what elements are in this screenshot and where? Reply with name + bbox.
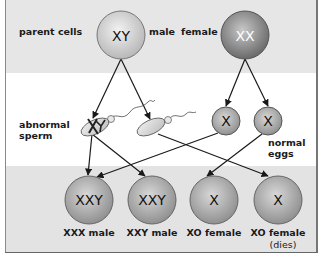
sperm-o-midpiece (165, 117, 172, 124)
offspring-1-label: XXX male (63, 227, 114, 238)
parent-cells-label: parent cells (19, 26, 83, 37)
normal-eggs-label-line2: eggs (268, 148, 294, 159)
offspring-4-label: XO female (251, 227, 306, 238)
parent-female-label: female (181, 26, 218, 37)
parent-female-genotype: XX (235, 28, 255, 44)
offspring-4-genotype: X (273, 192, 283, 208)
parent-male-genotype: XY (112, 28, 131, 44)
offspring-3-genotype: X (209, 192, 219, 208)
abnormal-sperm-label-line2: sperm (19, 130, 53, 141)
offspring-2-genotype: XXY (138, 192, 166, 208)
offspring-2: XXY XXY male (127, 176, 178, 238)
normal-eggs-label: normal (268, 137, 306, 148)
offspring-3-label: XO female (187, 227, 242, 238)
offspring-2-label: XXY male (127, 227, 178, 238)
parent-male-label: male (149, 26, 175, 37)
offspring-1-genotype: XXY (75, 192, 103, 208)
egg-1: X (212, 107, 240, 135)
diagram-canvas: XY male XX female parent cells abnormal … (0, 0, 322, 259)
egg-1-chromosome: X (221, 113, 231, 129)
offspring-4-note: (dies) (270, 239, 297, 250)
egg-2: X (254, 107, 282, 135)
offspring-1: XXY XXX male (63, 176, 114, 238)
egg-2-chromosome: X (263, 113, 273, 129)
offspring-3: X XO female (187, 176, 242, 238)
abnormal-sperm-label: abnormal (19, 119, 70, 130)
